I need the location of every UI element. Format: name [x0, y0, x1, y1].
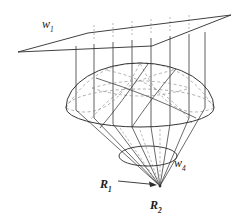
apex-point: [159, 185, 162, 188]
r1-leader-arrow: [118, 181, 157, 187]
label-w4: w4: [174, 157, 186, 172]
label-w4-symbol: w: [174, 156, 182, 170]
geometric-diagram: [0, 0, 242, 219]
label-r1-symbol: R: [100, 177, 108, 191]
label-r2-subscript: 2: [158, 206, 162, 215]
label-w4-subscript: 4: [182, 164, 186, 173]
label-w1: w1: [42, 18, 54, 33]
label-r2: R2: [150, 199, 162, 214]
label-r1-subscript: 1: [108, 185, 112, 194]
label-w1-subscript: 1: [50, 25, 54, 34]
dome-chords: [96, 64, 196, 128]
dome-outline: [66, 63, 214, 127]
label-r2-symbol: R: [150, 198, 158, 212]
figure-container: w1 w4 R1 R2: [0, 0, 242, 219]
cone-rays-dashed: [120, 128, 160, 186]
small-ellipse: [119, 146, 177, 166]
ray-lines-dashed-upper: [94, 15, 189, 40]
label-r1: R1: [100, 178, 112, 193]
cone-rays: [76, 108, 205, 186]
label-w1-symbol: w: [42, 17, 50, 31]
dome-equator-back: [66, 89, 214, 108]
